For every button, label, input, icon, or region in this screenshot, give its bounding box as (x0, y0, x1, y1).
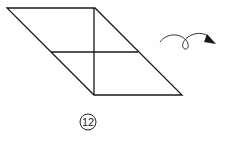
diagram-canvas: 12 (0, 0, 226, 145)
fold-diagram: 12 (0, 0, 226, 145)
parallelogram-shape (7, 8, 182, 95)
step-number-badge: 12 (80, 114, 96, 130)
turn-over-arrow-icon (160, 33, 216, 49)
step-number: 12 (82, 116, 94, 128)
arrow-head-icon (204, 34, 216, 44)
